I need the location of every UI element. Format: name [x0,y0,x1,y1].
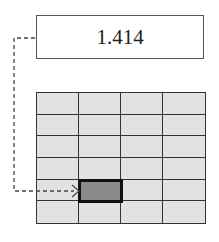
dashed-connector-arrow [0,0,219,242]
